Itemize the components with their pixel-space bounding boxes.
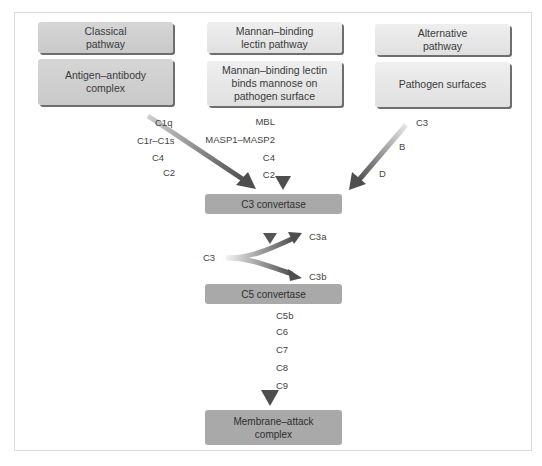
alternative-component-c3: C3 (416, 117, 428, 128)
c5-convertase-box: C5 convertase (205, 284, 342, 304)
classical-component-c1r-c1s: C1r–C1s (137, 135, 175, 146)
terminal-component-c6: C6 (276, 326, 288, 337)
alternative-pathway-box: Alternative pathway (375, 24, 510, 55)
lectin-pathway-box: Mannan–binding lectin pathway (207, 22, 342, 53)
terminal-component-c8: C8 (276, 362, 288, 373)
classical-trigger-box: Antigen–antibody complex (38, 59, 173, 105)
c3-cleavage-arrows (226, 232, 302, 281)
membrane-attack-complex-box: Membrane–attack complex (205, 410, 342, 445)
alternative-arrow (349, 125, 406, 190)
c3-input-label: C3 (203, 252, 215, 263)
terminal-arrow (261, 310, 279, 406)
c3-convertase-box: C3 convertase (205, 194, 342, 214)
lectin-component-c4: C4 (263, 152, 275, 163)
classical-component-c2: C2 (163, 167, 175, 178)
classical-component-c1q: C1q (155, 117, 172, 128)
lectin-component-mbl: MBL (255, 116, 275, 127)
terminal-component-c9: C9 (276, 380, 288, 391)
c3-convertase-down-arrow (263, 224, 277, 244)
c3a-label: C3a (309, 231, 326, 242)
classical-component-c4: C4 (152, 152, 164, 163)
lectin-component-masp: MASP1–MASP2 (205, 134, 275, 145)
classical-pathway-box: Classical pathway (38, 22, 173, 53)
terminal-component-c7: C7 (276, 344, 288, 355)
alternative-component-b: B (399, 141, 405, 152)
terminal-component-c5b: C5b (276, 310, 293, 321)
alternative-component-d: D (379, 168, 386, 179)
lectin-trigger-box: Mannan–binding lectin binds mannose on p… (207, 61, 342, 106)
c3b-label: C3b (309, 271, 326, 282)
lectin-component-c2: C2 (263, 169, 275, 180)
lectin-arrow (275, 116, 291, 190)
alternative-trigger-box: Pathogen surfaces (375, 62, 510, 107)
